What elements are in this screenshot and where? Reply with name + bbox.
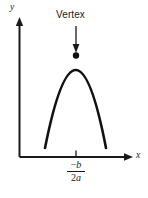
x-axis-label: x xyxy=(136,151,140,161)
denominator-variable-a: a xyxy=(76,172,81,183)
fraction-denominator: 2a xyxy=(61,173,91,183)
parabola-curve xyxy=(45,70,106,148)
vertex-x-coordinate-fraction: −b 2a xyxy=(61,160,91,183)
y-axis-arrowhead-icon xyxy=(16,17,23,26)
vertex-annotation-arrowhead-icon xyxy=(73,44,80,53)
x-axis-arrowhead-icon xyxy=(124,153,133,160)
parabola-vertex-figure: Vertex y x −b 2a xyxy=(0,0,148,198)
fraction-numerator: −b xyxy=(61,160,91,170)
numerator-variable-b: b xyxy=(76,159,81,170)
y-axis-label: y xyxy=(10,3,14,13)
vertex-label: Vertex xyxy=(56,10,85,20)
vertex-point-marker xyxy=(73,52,79,58)
